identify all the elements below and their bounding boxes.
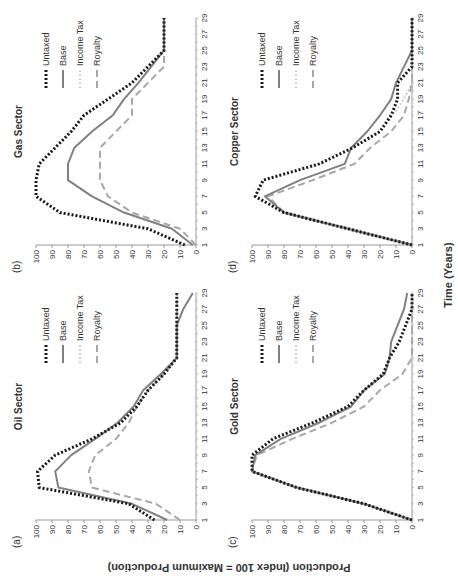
- x-tick-label: 25: [200, 45, 209, 54]
- y-tick-label: 80: [64, 524, 73, 533]
- y-tick-label: 50: [328, 249, 337, 258]
- legend-label: Income Tax: [75, 295, 85, 341]
- y-tick-label: 0: [408, 524, 417, 529]
- x-tick-label: 23: [416, 337, 425, 346]
- x-tick-label: 17: [416, 385, 425, 394]
- panel-label: (a): [11, 536, 22, 548]
- series-base: [265, 18, 412, 245]
- y-tick-label: 70: [296, 524, 305, 533]
- x-tick-label: 15: [200, 402, 209, 411]
- x-tick-label: 15: [416, 402, 425, 411]
- x-tick-label: 25: [200, 320, 209, 329]
- x-tick-label: 21: [416, 353, 425, 362]
- y-tick-label: 50: [328, 524, 337, 533]
- series-royalty: [100, 18, 196, 245]
- series-royalty: [268, 18, 412, 245]
- panels: (a)Oil Sector010203040506070809010013579…: [11, 13, 425, 548]
- x-tick-label: 15: [200, 127, 209, 136]
- y-tick-label: 100: [32, 524, 41, 538]
- legend-label: Untaxed: [257, 32, 267, 66]
- x-tick-label: 27: [416, 29, 425, 38]
- chart-panel-gas-sector: (b)Gas Sector010203040506070809010013579…: [11, 13, 209, 273]
- x-tick-label: 29: [416, 13, 425, 22]
- x-tick-label: 29: [200, 13, 209, 22]
- x-tick-label: 3: [416, 226, 425, 231]
- x-tick-label: 7: [200, 469, 209, 474]
- legend-label: Untaxed: [41, 32, 51, 66]
- y-tick-label: 20: [376, 249, 385, 258]
- legend-label: Untaxed: [257, 307, 267, 341]
- y-tick-label: 60: [312, 249, 321, 258]
- x-tick-label: 7: [416, 194, 425, 199]
- x-tick-label: 29: [416, 288, 425, 297]
- x-tick-label: 1: [200, 242, 209, 247]
- legend-label: Base: [58, 45, 68, 66]
- legend-label: Royalty: [92, 310, 102, 341]
- legend-label: Income Tax: [291, 295, 301, 341]
- x-tick-label: 5: [416, 485, 425, 490]
- x-tick-label: 7: [200, 194, 209, 199]
- x-tick-label: 27: [200, 304, 209, 313]
- x-tick-label: 19: [200, 94, 209, 103]
- y-tick-label: 20: [160, 249, 169, 258]
- y-tick-label: 90: [264, 249, 273, 258]
- series-base: [68, 18, 193, 245]
- x-tick-label: 27: [200, 29, 209, 38]
- figure-canvas: Production (Index 100 = Maximum Producti…: [0, 0, 458, 580]
- x-tick-label: 19: [416, 94, 425, 103]
- x-tick-label: 3: [200, 501, 209, 506]
- x-tick-label: 9: [416, 452, 425, 457]
- x-tick-label: 13: [200, 143, 209, 152]
- y-tick-label: 90: [264, 524, 273, 533]
- y-tick-label: 60: [96, 249, 105, 258]
- x-tick-label: 13: [416, 418, 425, 427]
- x-tick-label: 5: [200, 210, 209, 215]
- x-tick-label: 1: [416, 517, 425, 522]
- x-tick-label: 25: [416, 320, 425, 329]
- panel-label: (d): [227, 261, 238, 273]
- y-tick-label: 100: [248, 249, 257, 263]
- x-tick-label: 13: [416, 143, 425, 152]
- panel-title: Copper Sector: [229, 97, 240, 166]
- chart-panel-copper-sector: (d)Copper Sector010203040506070809010013…: [227, 13, 425, 273]
- x-tick-label: 23: [200, 337, 209, 346]
- legend-label: Royalty: [92, 35, 102, 66]
- x-tick-label: 19: [416, 369, 425, 378]
- x-tick-label: 15: [416, 127, 425, 136]
- y-tick-label: 70: [80, 524, 89, 533]
- y-tick-label: 20: [160, 524, 169, 533]
- y-tick-label: 60: [96, 524, 105, 533]
- x-tick-label: 11: [200, 159, 209, 168]
- y-tick-label: 10: [392, 249, 401, 258]
- panel-label: (c): [227, 536, 238, 548]
- x-tick-label: 19: [200, 369, 209, 378]
- y-tick-label: 40: [344, 249, 353, 258]
- y-tick-label: 20: [376, 524, 385, 533]
- chart-panel-oil-sector: (a)Oil Sector010203040506070809010013579…: [11, 288, 209, 548]
- x-tick-label: 1: [200, 517, 209, 522]
- y-tick-label: 30: [360, 249, 369, 258]
- y-axis-title: Production (Index 100 = Maximum Producti…: [107, 562, 350, 574]
- y-tick-label: 50: [112, 524, 121, 533]
- y-tick-label: 90: [48, 524, 57, 533]
- x-tick-label: 11: [200, 434, 209, 443]
- y-tick-label: 80: [280, 249, 289, 258]
- y-tick-label: 50: [112, 249, 121, 258]
- y-tick-label: 0: [192, 249, 201, 254]
- x-tick-label: 3: [200, 226, 209, 231]
- y-tick-label: 90: [48, 249, 57, 258]
- x-axis-title: Time (Years): [442, 242, 454, 308]
- x-tick-label: 21: [200, 78, 209, 87]
- x-tick-label: 17: [200, 385, 209, 394]
- y-tick-label: 10: [392, 524, 401, 533]
- x-tick-label: 25: [416, 45, 425, 54]
- x-tick-label: 23: [200, 62, 209, 71]
- legend-label: Royalty: [308, 35, 318, 66]
- x-tick-label: 7: [416, 469, 425, 474]
- x-tick-label: 1: [416, 242, 425, 247]
- y-tick-label: 100: [32, 249, 41, 263]
- x-tick-label: 3: [416, 501, 425, 506]
- x-tick-label: 21: [416, 78, 425, 87]
- x-tick-label: 9: [416, 177, 425, 182]
- x-tick-label: 5: [416, 210, 425, 215]
